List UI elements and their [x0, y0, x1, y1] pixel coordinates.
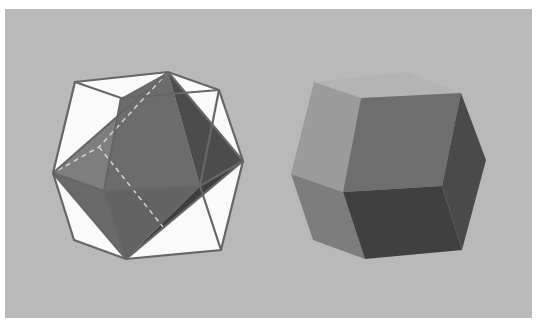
left-polyhedron	[53, 72, 243, 259]
rd-face-front	[343, 93, 461, 192]
polyhedra-illustration	[0, 0, 539, 321]
right-polyhedron	[291, 72, 486, 259]
